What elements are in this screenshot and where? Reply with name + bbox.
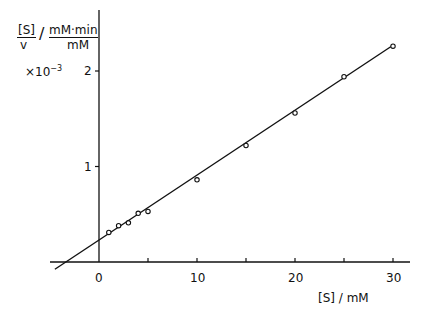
- y-unit-denominator: mM: [67, 39, 89, 51]
- y-tick-label-2: 2: [84, 65, 92, 77]
- multiplier-exponent: −3: [50, 64, 62, 73]
- x-axis-label: [S] / mM: [318, 292, 369, 304]
- y-label-numerator: [S]: [17, 24, 36, 38]
- data-point: [342, 75, 346, 79]
- y-tick-label-1: 1: [84, 161, 92, 173]
- data-point: [146, 209, 150, 213]
- plot-area: [0, 0, 430, 311]
- data-point: [126, 221, 130, 225]
- y-axis-multiplier: ×10−3: [25, 64, 62, 79]
- x-tick-label-30: 30: [386, 272, 401, 284]
- data-point: [116, 224, 120, 228]
- y-label-denominator: v: [20, 39, 27, 51]
- data-point: [195, 178, 199, 182]
- data-point: [136, 211, 140, 215]
- data-point: [244, 143, 248, 147]
- data-point: [391, 44, 395, 48]
- x-tick-label-0: 0: [95, 272, 103, 284]
- y-label-slash: /: [39, 26, 44, 42]
- y-unit-numerator: mM·min: [49, 24, 98, 38]
- data-point: [107, 230, 111, 234]
- multiplier-base: ×10: [25, 65, 50, 79]
- x-tick-label-20: 20: [288, 272, 303, 284]
- data-point: [293, 111, 297, 115]
- x-tick-label-10: 10: [190, 272, 205, 284]
